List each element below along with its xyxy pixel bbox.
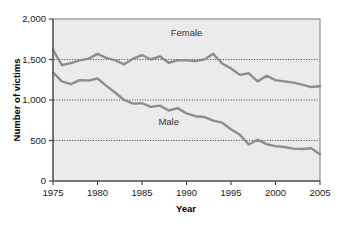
y-axis-title: Number of victims: [11, 59, 22, 142]
chart-figure: 05001,0001,5002,000 19751980198519901995…: [0, 0, 338, 227]
x-tick-label-1: 1980: [87, 187, 108, 198]
victims-by-year-line-chart: 05001,0001,5002,000 19751980198519901995…: [0, 0, 338, 227]
x-tick-label-0: 1975: [42, 187, 63, 198]
x-axis-title: Year: [176, 203, 196, 214]
x-tick-label-3: 1990: [176, 187, 197, 198]
y-tick-label-2: 1,000: [22, 94, 46, 105]
x-tick-label-6: 2005: [309, 187, 330, 198]
x-tick-label-4: 1995: [220, 187, 241, 198]
y-tick-label-3: 1,500: [22, 54, 46, 65]
y-tick-label-1: 500: [30, 135, 46, 146]
x-tick-label-2: 1985: [131, 187, 152, 198]
y-tick-label-4: 2,000: [22, 13, 46, 24]
x-tick-label-5: 2000: [265, 187, 286, 198]
y-tick-label-0: 0: [41, 175, 46, 186]
series-label-female: Female: [171, 27, 203, 38]
series-label-male: Male: [158, 116, 179, 127]
